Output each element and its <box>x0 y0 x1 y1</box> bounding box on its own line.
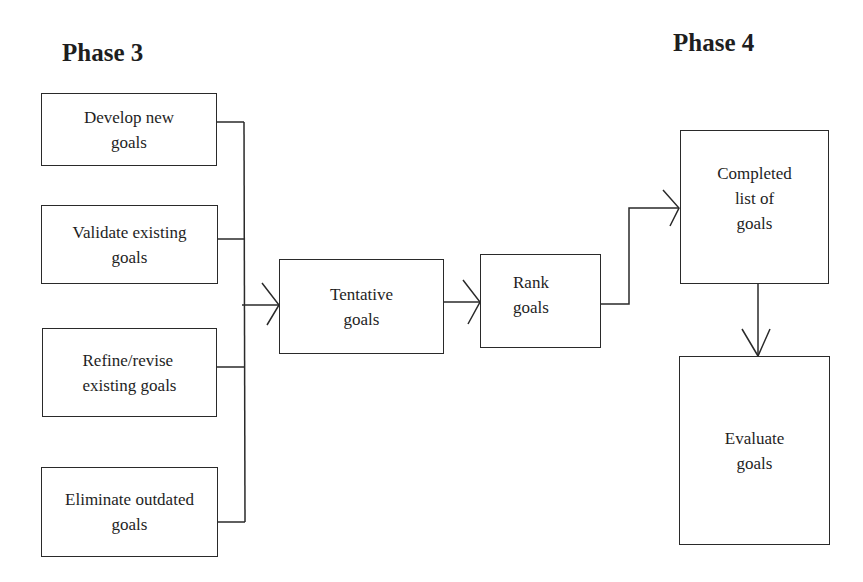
box-evaluate-goals: Evaluate goals <box>679 356 830 545</box>
box-rank-goals: Rank goals <box>480 254 601 348</box>
arrowhead-evaluate <box>742 329 770 356</box>
box-label: Develop new goals <box>84 105 174 155</box>
arrowhead-tentative <box>262 283 279 325</box>
box-label: Rank goals <box>513 270 549 320</box>
connector-bus <box>244 122 245 522</box>
arrow-to-completed <box>600 208 679 304</box>
box-validate-existing-goals: Validate existing goals <box>41 205 218 284</box>
box-label: Validate existing goals <box>73 220 187 270</box>
box-eliminate-outdated-goals: Eliminate outdated goals <box>41 467 218 557</box>
box-label: Refine/revise existing goals <box>83 348 177 398</box>
box-completed-list-of-goals: Completed list of goals <box>680 130 829 284</box>
phase-4-heading: Phase 4 <box>673 30 754 55</box>
box-develop-new-goals: Develop new goals <box>41 93 217 166</box>
phase-3-heading: Phase 3 <box>62 40 143 65</box>
box-tentative-goals: Tentative goals <box>279 259 444 354</box>
box-label: Eliminate outdated goals <box>65 487 194 537</box>
box-refine-revise-goals: Refine/revise existing goals <box>42 328 217 417</box>
box-label: Tentative goals <box>330 282 393 332</box>
box-label: Completed list of goals <box>717 161 792 236</box>
box-label: Evaluate goals <box>725 426 784 476</box>
